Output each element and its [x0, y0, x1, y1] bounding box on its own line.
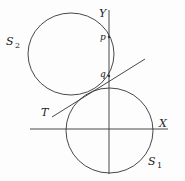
point-p: [108, 36, 110, 38]
y-axis-label: Y: [99, 7, 108, 20]
svg-text:S: S: [6, 35, 14, 48]
point-p-label: p: [100, 32, 106, 42]
diagram-canvas: Y X p q T S 2 S 1: [0, 0, 185, 181]
svg-text:2: 2: [15, 41, 20, 50]
circles-tangent-figure: Y X p q T S 2 S 1: [0, 0, 185, 181]
x-axis-label: X: [158, 117, 168, 130]
circle-s1: [66, 88, 153, 173]
circle-s2: [28, 13, 114, 95]
point-q-label: q: [100, 69, 106, 79]
tangent-line-t: [52, 59, 145, 117]
tangent-label: T: [41, 106, 50, 119]
svg-text:1: 1: [157, 161, 162, 170]
svg-text:S: S: [148, 155, 156, 168]
s1-label: S 1: [148, 155, 162, 170]
point-q: [108, 75, 110, 77]
s2-label: S 2: [6, 35, 20, 50]
